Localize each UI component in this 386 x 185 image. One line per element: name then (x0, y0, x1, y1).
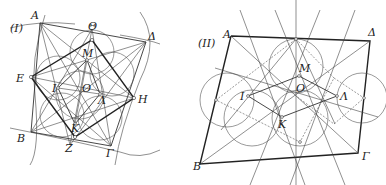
label-Lambda: Λ (97, 94, 106, 107)
label-K-2: K (277, 118, 287, 131)
panel-1-diagram: (I) A Θ Δ M E I O Λ H K B Z Γ (10, 9, 160, 165)
label-M: M (81, 47, 94, 60)
label-Delta-2: Δ (367, 26, 376, 39)
label-O: O (82, 82, 91, 95)
label-Gamma-2: Γ (361, 150, 370, 163)
label-A-2: A (222, 28, 231, 41)
label-K: K (70, 122, 80, 135)
label-M-2: M (298, 62, 311, 75)
label-B: B (16, 132, 25, 145)
label-H: H (137, 93, 148, 106)
label-B-2: B (192, 160, 201, 173)
label-Theta: Θ (88, 20, 97, 33)
label-Lambda-2: Λ (339, 90, 348, 103)
label-Delta: Δ (147, 30, 156, 43)
label-A: A (30, 9, 39, 22)
panel-2-diagram: (II) A Δ M O I Λ K B Γ (192, 0, 386, 185)
label-Gamma: Γ (105, 147, 114, 160)
label-I-2: I (239, 90, 245, 103)
geometry-figure: (I) A Θ Δ M E I O Λ H K B Z Γ (0, 0, 386, 185)
panel-1-tag: (I) (10, 22, 23, 35)
label-E: E (15, 72, 24, 85)
label-O-2: O (296, 82, 305, 95)
label-Z: Z (64, 142, 73, 155)
label-I: I (51, 82, 57, 95)
panel-2-tag: (II) (198, 37, 215, 50)
